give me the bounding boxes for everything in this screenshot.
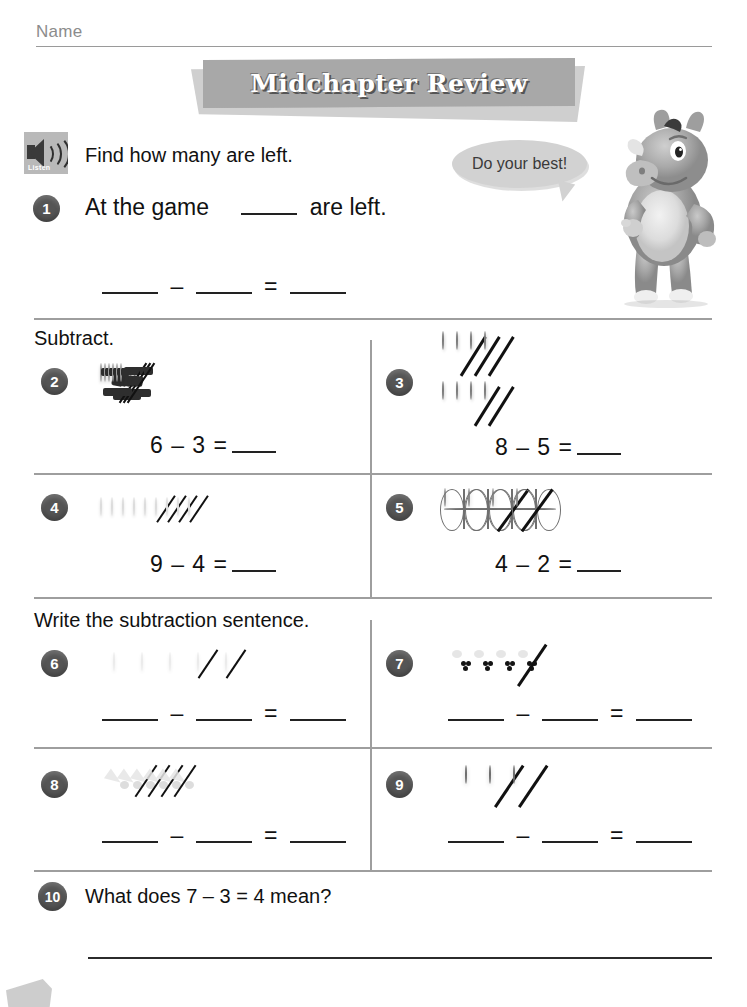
cross-out-slash (518, 765, 548, 808)
problem-6-equals-sign: = (264, 700, 277, 726)
problem-number-8: 8 (41, 771, 68, 798)
problem-5-objects (444, 489, 518, 507)
golf-ball-icon-crossed (177, 498, 179, 516)
listen-icon-label: Listen (28, 164, 50, 171)
name-label: Name (36, 22, 712, 42)
problem-8-subtrahend-blank[interactable] (196, 840, 252, 843)
problem-9-difference-blank[interactable] (636, 840, 692, 843)
football-icon (442, 332, 444, 350)
problem-number-4: 4 (41, 494, 68, 521)
problem-2-answer-blank[interactable] (232, 450, 276, 453)
problem-7-subtrahend-blank[interactable] (542, 718, 598, 721)
problem-1-answer-blank[interactable] (241, 212, 297, 215)
page-title-banner: Midchapter Review (185, 56, 591, 128)
soccer-ball-icon-crossed (120, 364, 122, 382)
page-title: Midchapter Review (203, 58, 575, 108)
name-write-line[interactable] (36, 46, 712, 47)
problem-9-subtrahend-blank[interactable] (542, 840, 598, 843)
problem-10-answer-line[interactable] (88, 957, 712, 959)
football-icon-crossed (456, 332, 458, 350)
rhino-mascot-icon (590, 108, 740, 308)
tennis-ball-icon (465, 766, 467, 784)
problem-8-difference-blank[interactable] (290, 840, 346, 843)
football-icon-crossed (470, 382, 472, 400)
cross-out-slash (198, 649, 219, 678)
problem-9-equals-sign: = (610, 822, 623, 848)
divider-rule-5 (34, 870, 712, 872)
problem-1-difference-blank[interactable] (290, 291, 346, 294)
cross-out-slash (488, 336, 514, 376)
problem-8-minuend-blank[interactable] (102, 840, 158, 843)
problem-7-difference-blank[interactable] (636, 718, 692, 721)
problem-3-equation-text: 8 – 5 = (495, 434, 573, 460)
golf-ball-icon (141, 653, 143, 671)
name-field-row: Name (36, 22, 712, 48)
problem-9-minuend-blank[interactable] (448, 840, 504, 843)
problem-8-equals-sign: = (264, 822, 277, 848)
problem-1-equation: – = (96, 273, 352, 300)
problem-number-7: 7 (386, 650, 413, 677)
speech-bubble-text: Do your best! (472, 155, 567, 173)
golf-ball-icon-crossed (155, 498, 157, 516)
football-icon-crossed (470, 332, 472, 350)
problem-5-answer-blank[interactable] (577, 569, 621, 572)
problem-7-equals-sign: = (610, 700, 623, 726)
problem-6-subtrahend-blank[interactable] (196, 718, 252, 721)
golf-ball-icon (169, 653, 171, 671)
soccer-ball-icon (104, 364, 106, 382)
column-divider-upper (370, 340, 372, 598)
page-footer-icon (6, 979, 52, 1007)
problem-number-1: 1 (33, 195, 60, 222)
problem-1-subtrahend-blank[interactable] (196, 291, 252, 294)
problem-8-minus-sign: – (170, 822, 183, 848)
problem-1-minuend-blank[interactable] (102, 291, 158, 294)
golf-ball-icon (133, 498, 135, 516)
problem-3-answer-blank[interactable] (577, 452, 621, 455)
problem-number-2: 2 (41, 368, 68, 395)
section-instruction-2: Subtract. (34, 326, 114, 350)
football-icon (456, 382, 458, 400)
golf-ball-icon (100, 498, 102, 516)
problem-5-equation-text: 4 – 2 = (495, 551, 573, 577)
section-instruction-3: Write the subtraction sentence. (34, 608, 309, 632)
problem-4-equation-text: 9 – 4 = (150, 551, 228, 577)
golf-ball-icon (111, 498, 113, 516)
soccer-ball-icon (100, 364, 102, 382)
problem-9-objects (465, 766, 515, 784)
divider-rule-1 (34, 318, 712, 320)
golf-ball-icon (144, 498, 146, 516)
problem-3-objects-row-1 (442, 332, 486, 350)
cross-out-slash (488, 386, 514, 426)
problem-6-objects (113, 653, 227, 671)
problem-3-equation: 8 – 5 = (495, 434, 625, 461)
soccer-ball-icon-crossed (112, 364, 114, 382)
problem-7-minuend-blank[interactable] (448, 718, 504, 721)
problem-4-answer-blank[interactable] (232, 569, 276, 572)
soccer-ball-icon-crossed (116, 364, 118, 382)
problem-3-objects-row-2 (442, 382, 486, 400)
basketball-icon-crossed (492, 489, 494, 507)
problem-6-minuend-blank[interactable] (102, 718, 158, 721)
cross-out-slash (474, 336, 500, 376)
tennis-ball-icon-crossed (513, 766, 515, 784)
problem-1-sentence: At the game are left. (85, 194, 387, 221)
problem-2-equation: 6 – 3 = (150, 432, 280, 459)
cross-out-slash (474, 386, 500, 426)
problem-5-equation: 4 – 2 = (495, 551, 625, 578)
golf-ball-icon (113, 653, 115, 671)
golf-ball-icon-crossed (197, 653, 199, 671)
problem-1-text-after: are left. (310, 194, 387, 220)
football-icon (442, 382, 444, 400)
problem-2-equation-text: 6 – 3 = (150, 432, 228, 458)
basketball-icon-crossed (516, 489, 518, 507)
cross-out-slash (460, 336, 486, 376)
listen-icon[interactable]: Listen (24, 132, 68, 174)
problem-number-10: 10 (38, 882, 67, 911)
golf-ball-icon (122, 498, 124, 516)
soccer-ball-icon (108, 364, 110, 382)
golf-ball-icon-crossed (188, 498, 190, 516)
problem-6-difference-blank[interactable] (290, 718, 346, 721)
golf-ball-icon-crossed (225, 653, 227, 671)
problem-2-objects (100, 364, 122, 382)
cross-out-slash (494, 765, 524, 808)
